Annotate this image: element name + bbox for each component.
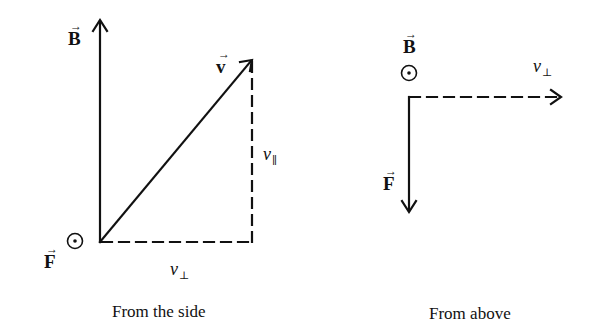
caption-top-view: From above — [429, 305, 511, 322]
velocity-label: →v — [216, 57, 226, 76]
force-label-top: →F — [383, 174, 395, 193]
force-label: →F — [44, 252, 56, 271]
v-perp-label-top: v⊥ — [533, 57, 552, 78]
b-field-label: →B — [68, 29, 81, 48]
diagram-canvas — [0, 0, 602, 328]
v-perp-label: v⊥ — [170, 260, 189, 281]
velocity-vector — [100, 61, 251, 242]
b-field-label-top: →B — [403, 37, 416, 56]
top-view-diagram — [402, 66, 562, 213]
v-parallel-label: v∥ — [263, 145, 277, 166]
caption-side-view: From the side — [112, 303, 206, 320]
